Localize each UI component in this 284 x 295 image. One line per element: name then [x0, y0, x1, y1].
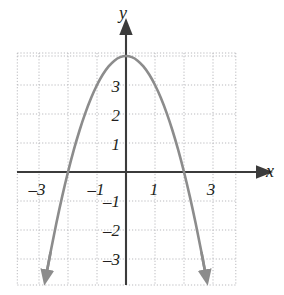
y-tick-label-neg3: –3: [94, 251, 120, 268]
x-tick-label-neg3: –3: [23, 181, 51, 198]
x-axis-label: x: [266, 162, 274, 180]
parabola-arrow-right: [201, 252, 205, 272]
x-tick-label-pos3: 3: [200, 181, 222, 198]
y-tick-label-pos3: 3: [101, 78, 120, 95]
y-tick-label-neg2: –2: [94, 222, 120, 239]
parabola-arrow-left: [47, 252, 51, 272]
y-tick-label-pos2: 2: [101, 107, 120, 124]
y-tick-label-neg1: –1: [94, 193, 120, 210]
y-tick-label-pos1: 1: [101, 136, 120, 153]
graph-figure: –3 –1 1 3 3 2 1 –1 –2 –3 x y: [0, 0, 284, 295]
x-tick-label-pos1: 1: [143, 181, 165, 198]
plot-canvas: [0, 0, 284, 295]
y-axis-label: y: [119, 4, 127, 22]
